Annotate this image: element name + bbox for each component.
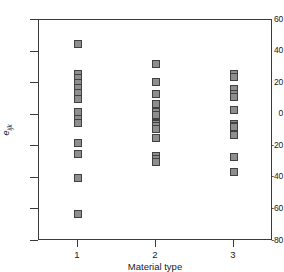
data-point xyxy=(230,93,238,101)
data-point xyxy=(152,90,160,98)
y-axis-tick xyxy=(30,240,38,241)
x-axis-tick-label: 1 xyxy=(65,249,89,260)
data-point xyxy=(230,73,238,81)
data-point xyxy=(152,134,160,142)
x-axis-tick xyxy=(77,240,78,247)
data-point xyxy=(152,78,160,86)
data-point xyxy=(74,108,82,116)
plot-area xyxy=(38,19,272,240)
y-axis-tick xyxy=(30,145,38,146)
y-axis-label: eijk xyxy=(1,108,13,152)
data-point xyxy=(152,100,160,108)
x-axis-tick xyxy=(233,240,234,247)
data-point xyxy=(74,119,82,127)
data-point xyxy=(74,139,82,147)
y-axis-tick xyxy=(30,51,38,52)
data-point xyxy=(230,106,238,114)
x-axis-tick xyxy=(155,240,156,247)
data-point xyxy=(230,131,238,139)
data-point xyxy=(152,125,160,133)
data-point xyxy=(74,174,82,182)
y-axis-tick xyxy=(30,19,38,20)
data-point xyxy=(152,60,160,68)
y-axis-tick xyxy=(30,82,38,83)
x-axis-tick-label: 3 xyxy=(221,249,245,260)
data-point xyxy=(230,153,238,161)
data-point xyxy=(74,95,82,103)
data-point xyxy=(74,150,82,158)
data-point xyxy=(152,158,160,166)
y-axis-tick xyxy=(30,208,38,209)
y-axis-tick xyxy=(30,177,38,178)
data-point xyxy=(230,168,238,176)
y-axis-label-wrapper: eijk xyxy=(0,108,15,152)
data-point xyxy=(152,111,160,119)
data-point xyxy=(74,40,82,48)
x-axis-label: Material type xyxy=(38,261,272,272)
y-axis-tick xyxy=(30,114,38,115)
data-point xyxy=(230,123,238,131)
x-axis-tick-label: 2 xyxy=(143,249,167,260)
data-point xyxy=(74,210,82,218)
